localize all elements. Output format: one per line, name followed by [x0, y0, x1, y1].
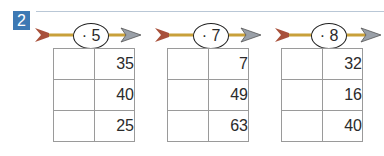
- header-rule: [36, 11, 384, 12]
- table-row: 40: [282, 111, 363, 142]
- arrow-icon: · 8: [273, 20, 383, 50]
- table-row: 49: [168, 80, 249, 111]
- input-cell[interactable]: [54, 80, 95, 111]
- input-cell[interactable]: [282, 111, 323, 142]
- output-cell: 25: [95, 111, 135, 142]
- output-cell: 63: [209, 111, 249, 142]
- input-cell[interactable]: [282, 80, 323, 111]
- multiply-table-1: · 5 35 40 25: [33, 20, 143, 50]
- input-cell[interactable]: [168, 80, 209, 111]
- input-cell[interactable]: [54, 111, 95, 142]
- table-row: 32: [282, 49, 363, 80]
- output-cell: 49: [209, 80, 249, 111]
- arrow-icon: · 5: [33, 20, 143, 50]
- output-cell: 16: [323, 80, 363, 111]
- output-cell: 7: [209, 49, 249, 80]
- value-table: 35 40 25: [53, 48, 135, 142]
- table-row: 25: [54, 111, 135, 142]
- value-table: 7 49 63: [167, 48, 249, 142]
- operator-circle: · 8: [311, 23, 347, 49]
- value-table: 32 16 40: [281, 48, 363, 142]
- input-cell[interactable]: [54, 49, 95, 80]
- input-cell[interactable]: [282, 49, 323, 80]
- output-cell: 35: [95, 49, 135, 80]
- table-row: 7: [168, 49, 249, 80]
- input-cell[interactable]: [168, 49, 209, 80]
- multiply-table-2: · 7 7 49 63: [153, 20, 263, 50]
- arrow-icon: · 7: [153, 20, 263, 50]
- table-row: 63: [168, 111, 249, 142]
- table-row: 16: [282, 80, 363, 111]
- output-cell: 40: [95, 80, 135, 111]
- exercise-number-badge: 2: [13, 11, 30, 30]
- table-row: 40: [54, 80, 135, 111]
- input-cell[interactable]: [168, 111, 209, 142]
- operator-circle: · 7: [193, 23, 229, 49]
- multiply-table-3: · 8 32 16 40: [273, 20, 383, 50]
- operator-circle: · 5: [73, 23, 109, 49]
- output-cell: 32: [323, 49, 363, 80]
- output-cell: 40: [323, 111, 363, 142]
- table-row: 35: [54, 49, 135, 80]
